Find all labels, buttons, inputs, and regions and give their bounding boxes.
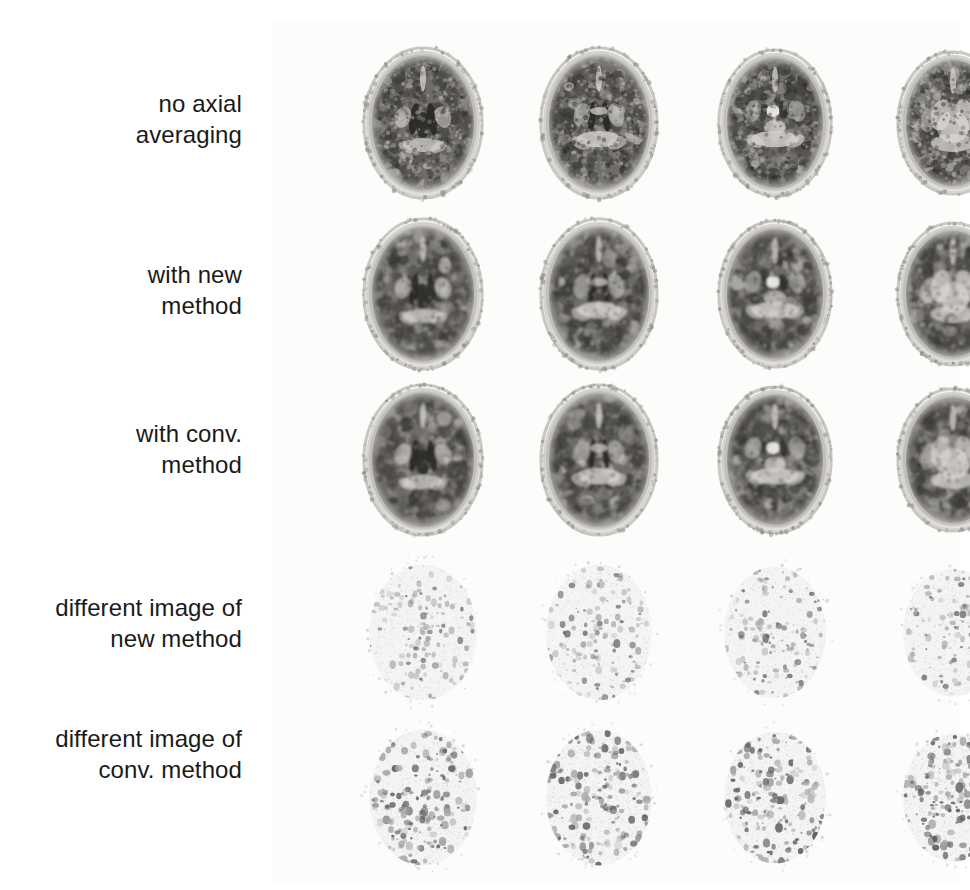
brain-slice-1-4	[878, 33, 970, 213]
figure-axial-averaging-comparison: no axial averagingwith new methodwith co…	[0, 0, 970, 890]
brain-slice-2-1	[348, 204, 498, 384]
brain-slice-2-4	[878, 204, 970, 384]
brain-slice-4-4	[878, 545, 970, 720]
row-label-different-image-of-new-method: different image of new method	[0, 592, 242, 654]
brain-slice-3-1	[348, 370, 498, 550]
brain-slice-2-3	[700, 204, 850, 384]
row-with-conv-method	[272, 370, 960, 550]
brain-slice-3-4	[878, 370, 970, 550]
brain-slice-4-2	[524, 545, 674, 720]
row-difference-new-method	[272, 545, 960, 720]
row-label-with-conv-method: with conv. method	[0, 418, 242, 480]
brain-slice-5-1	[348, 710, 498, 885]
row-no-axial-averaging	[272, 33, 960, 213]
brain-slice-3-2	[524, 370, 674, 550]
row-with-new-method	[272, 204, 960, 384]
row-label-with-new-method: with new method	[0, 259, 242, 321]
brain-slice-4-1	[348, 545, 498, 720]
brain-slice-4-3	[700, 545, 850, 720]
row-difference-conv-method	[272, 710, 960, 885]
row-label-column: no axial averagingwith new methodwith co…	[0, 0, 250, 890]
brain-slice-5-3	[700, 710, 850, 885]
brain-slice-5-4	[878, 710, 970, 885]
brain-image-grid	[272, 20, 960, 882]
brain-slice-3-3	[700, 370, 850, 550]
brain-slice-5-2	[524, 710, 674, 885]
row-label-no-axial-averaging: no axial averaging	[0, 88, 242, 150]
row-label-different-image-of-conv-method: different image of conv. method	[0, 723, 242, 785]
brain-slice-1-1	[348, 33, 498, 213]
brain-slice-1-2	[524, 33, 674, 213]
brain-slice-1-3	[700, 33, 850, 213]
brain-slice-2-2	[524, 204, 674, 384]
